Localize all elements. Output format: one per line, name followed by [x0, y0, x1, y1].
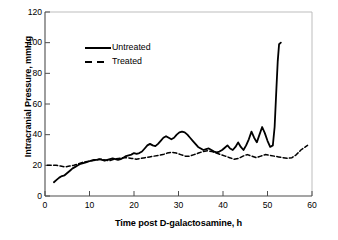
legend-dashed-line-icon	[85, 58, 111, 66]
legend-label-untreated: Untreated	[112, 43, 151, 52]
plot-area	[0, 0, 338, 240]
series-line-treated	[47, 145, 307, 166]
legend-label-treated: Treated	[112, 57, 142, 66]
legend-item-untreated: Untreated	[85, 38, 151, 52]
legend-item-treated: Treated	[85, 52, 151, 66]
chart-legend: Untreated Treated	[85, 38, 151, 66]
legend-solid-line-icon	[85, 44, 111, 52]
chart-figure: Intracranial Pressure, mmHg Time post D-…	[0, 0, 338, 240]
